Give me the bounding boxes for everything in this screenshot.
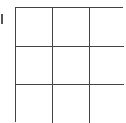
cell-2-0[interactable] bbox=[16, 85, 53, 123]
game-board bbox=[15, 7, 123, 122]
cell-0-1[interactable] bbox=[53, 8, 90, 47]
cell-1-1[interactable] bbox=[53, 47, 90, 85]
cell-0-2[interactable] bbox=[90, 8, 124, 47]
cell-2-2[interactable] bbox=[90, 85, 124, 123]
cell-0-0[interactable] bbox=[16, 8, 53, 47]
cell-2-1[interactable] bbox=[53, 85, 90, 123]
cell-1-0[interactable] bbox=[16, 47, 53, 85]
cell-1-2[interactable] bbox=[90, 47, 124, 85]
clipped-glyph bbox=[1, 14, 3, 24]
